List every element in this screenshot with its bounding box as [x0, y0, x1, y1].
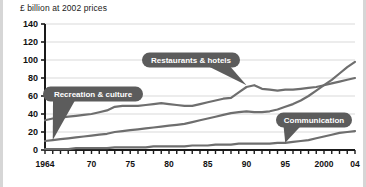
data-series — [45, 62, 355, 149]
x-axis — [45, 150, 355, 154]
y-tick-label: 40 — [28, 109, 38, 119]
line-chart: 020406080100120140 196470758085909520000… — [3, 0, 366, 187]
x-tick-label: 04 — [350, 159, 360, 169]
y-tick-label: 20 — [28, 127, 38, 137]
x-tick-label: 2000 — [315, 159, 334, 169]
callout-tail — [53, 101, 75, 141]
y-tick-label: 140 — [23, 19, 38, 29]
y-tick-label: 80 — [28, 73, 38, 83]
y-tick-labels: 020406080100120140 — [23, 19, 38, 155]
x-tick-label: 85 — [203, 159, 213, 169]
y-tick-label: 0 — [33, 145, 38, 155]
x-tick-label: 75 — [126, 159, 136, 169]
y-tick-label: 60 — [28, 91, 38, 101]
callout-label: Communication — [284, 116, 345, 125]
chart-figure: £ billion at 2002 prices 020406080100120… — [0, 0, 366, 187]
x-tick-label: 1964 — [36, 159, 55, 169]
callout-label: Restaurants & hotels — [151, 56, 232, 65]
series-line-communication — [45, 131, 355, 149]
y-tick-label: 100 — [23, 55, 38, 65]
x-tick-label: 80 — [164, 159, 174, 169]
callout-restaurants-hotels: Restaurants & hotels — [142, 53, 247, 86]
x-tick-label: 95 — [281, 159, 291, 169]
callout-tail — [209, 67, 247, 86]
callout-label: Recreation & culture — [54, 90, 133, 99]
x-tick-label: 90 — [242, 159, 252, 169]
x-tick-label: 70 — [87, 159, 97, 169]
x-tick-labels: 1964707580859095200004 — [36, 159, 360, 169]
y-tick-label: 120 — [23, 37, 38, 47]
y-axis — [41, 24, 45, 150]
